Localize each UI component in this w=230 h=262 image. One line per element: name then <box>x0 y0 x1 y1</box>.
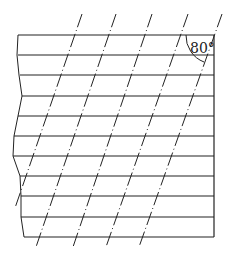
slanted-dash-dot-line <box>15 14 82 208</box>
hatching-diagram: 80° <box>0 0 230 262</box>
slanted-dash-dot-line <box>36 14 116 247</box>
slanted-dash-dot-line <box>73 14 152 247</box>
horizontal-lines <box>13 35 214 237</box>
angle-label: 80° <box>190 40 215 56</box>
slanted-dash-dot-line <box>106 14 188 247</box>
